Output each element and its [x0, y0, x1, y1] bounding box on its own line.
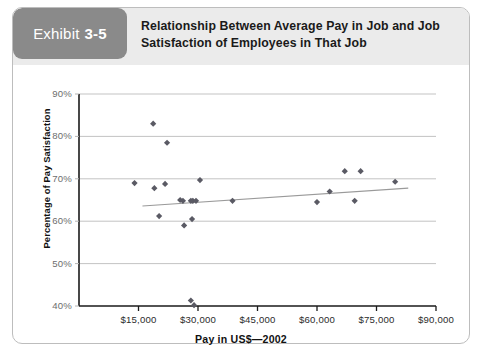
exhibit-title-line-1: Relationship Between Average Pay in Job …: [141, 18, 459, 35]
x-axis-title-text: Pay in US$—2002: [195, 333, 287, 345]
chart-area: Percentage of Pay Satisfaction 40%50%60%…: [13, 65, 469, 344]
data-point-marker: [156, 213, 162, 219]
scatter-plot: [13, 65, 469, 344]
data-point-marker: [358, 168, 364, 174]
data-point-marker: [197, 177, 203, 183]
data-point-marker: [151, 185, 157, 191]
exhibit-tag-word: Exhibit: [33, 25, 79, 42]
data-point-marker: [131, 180, 137, 186]
data-point-marker: [229, 198, 235, 204]
data-point-marker: [392, 179, 398, 185]
exhibit-card: Exhibit 3-5 Relationship Between Average…: [12, 7, 470, 344]
data-point-marker: [352, 198, 358, 204]
exhibit-tag: Exhibit 3-5: [13, 8, 127, 59]
exhibit-title: Relationship Between Average Pay in Job …: [141, 18, 459, 52]
exhibit-tag-number: 3-5: [85, 25, 107, 42]
exhibit-title-line-2: Satisfaction of Employees in That Job: [141, 35, 459, 52]
data-point-marker: [150, 121, 156, 127]
data-point-marker: [181, 222, 187, 228]
data-point-marker: [342, 168, 348, 174]
data-point-marker: [314, 199, 320, 205]
data-point-marker: [162, 181, 168, 187]
x-axis-title: Pay in US$—2002: [13, 333, 469, 345]
data-point-marker: [188, 297, 194, 303]
data-point-marker: [191, 302, 197, 308]
data-point-marker: [164, 140, 170, 146]
exhibit-header: Exhibit 3-5 Relationship Between Average…: [13, 8, 469, 65]
